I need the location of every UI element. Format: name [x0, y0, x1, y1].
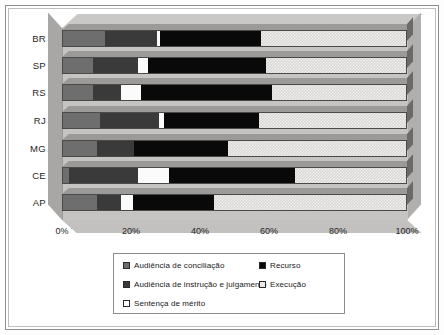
bar-segment — [62, 84, 93, 101]
bar-segment — [93, 57, 138, 74]
bar-body — [62, 112, 407, 129]
bar-segment — [62, 167, 69, 184]
category-tick-label: RS — [6, 87, 46, 98]
bar-segment — [138, 57, 148, 74]
bar-segment — [160, 30, 261, 47]
bar-segment — [141, 84, 272, 101]
bar-segment — [62, 140, 97, 157]
bar-segment — [62, 57, 93, 74]
bar-body — [62, 57, 407, 74]
bar-segment — [133, 194, 214, 211]
bar-segment — [121, 84, 142, 101]
bar-segment — [62, 194, 97, 211]
legend-label: Audiência de conciliação — [134, 261, 224, 270]
legend-label: Execução — [270, 280, 306, 289]
category-tick-label: RJ — [6, 115, 46, 126]
legend-item[interactable]: Execução — [259, 280, 306, 289]
bar-row — [62, 112, 407, 129]
bar-segment — [62, 112, 100, 129]
plot-left-wall — [48, 12, 62, 220]
bar-row — [62, 140, 407, 157]
bar-segment — [121, 194, 133, 211]
bar-segment — [214, 194, 407, 211]
x-tick-label: 40% — [178, 226, 222, 236]
bar-row — [62, 194, 407, 211]
legend-swatch-icon — [259, 262, 266, 269]
bar-segment — [148, 57, 265, 74]
bar-segment — [93, 84, 121, 101]
legend-item[interactable]: Audiência de conciliação — [123, 261, 224, 270]
bar-segment — [169, 167, 295, 184]
bar-row — [62, 30, 407, 47]
category-tick-label: BR — [6, 33, 46, 44]
bar-segment — [228, 140, 407, 157]
category-tick-label: SP — [6, 60, 46, 71]
bar-segment — [164, 112, 259, 129]
chart-legend: Audiência de conciliaçãoRecursoAudiência… — [113, 253, 345, 314]
bar-segment — [62, 30, 105, 47]
category-tick-label: CE — [6, 170, 46, 181]
bar-body — [62, 167, 407, 184]
bar-segment — [272, 84, 407, 101]
bar-body — [62, 140, 407, 157]
bar-body — [62, 30, 407, 47]
x-tick-label: 100% — [385, 226, 429, 236]
bar-segment — [105, 30, 157, 47]
legend-swatch-icon — [123, 300, 130, 307]
bar-segment — [138, 167, 169, 184]
chart-figure: BRSPRSRJMGCEAP 0%20%40%60%80%100% Audiên… — [0, 0, 444, 335]
category-tick-label: MG — [6, 143, 46, 154]
bar-segment — [295, 167, 407, 184]
bar-segment — [69, 167, 138, 184]
legend-item[interactable]: Sentença de mérito — [123, 299, 205, 308]
legend-label: Audiência de instrução e julgamento — [134, 280, 266, 289]
legend-swatch-icon — [123, 262, 130, 269]
bar-body — [62, 194, 407, 211]
bar-segment — [97, 140, 135, 157]
bar-row — [62, 84, 407, 101]
category-tick-label: AP — [6, 197, 46, 208]
x-tick-label: 20% — [109, 226, 153, 236]
x-tick-label: 60% — [247, 226, 291, 236]
bar-segment — [97, 194, 121, 211]
bar-body — [62, 84, 407, 101]
bar-row — [62, 57, 407, 74]
x-axis: 0%20%40%60%80%100% — [0, 226, 444, 248]
legend-label: Sentença de mérito — [134, 299, 205, 308]
legend-item[interactable]: Audiência de instrução e julgamento — [123, 280, 266, 289]
bar-segment — [134, 140, 227, 157]
x-tick-label: 0% — [40, 226, 84, 236]
legend-item[interactable]: Recurso — [259, 261, 301, 270]
bar-segment — [259, 112, 407, 129]
legend-swatch-icon — [123, 281, 130, 288]
bar-row — [62, 167, 407, 184]
category-axis: BRSPRSRJMGCEAP — [0, 0, 46, 250]
bar-segment — [261, 30, 407, 47]
plot-area: BRSPRSRJMGCEAP — [0, 0, 444, 250]
legend-label: Recurso — [270, 261, 301, 270]
legend-swatch-icon — [259, 281, 266, 288]
bar-segment — [266, 57, 407, 74]
x-tick-label: 80% — [316, 226, 360, 236]
bar-segment — [100, 112, 159, 129]
